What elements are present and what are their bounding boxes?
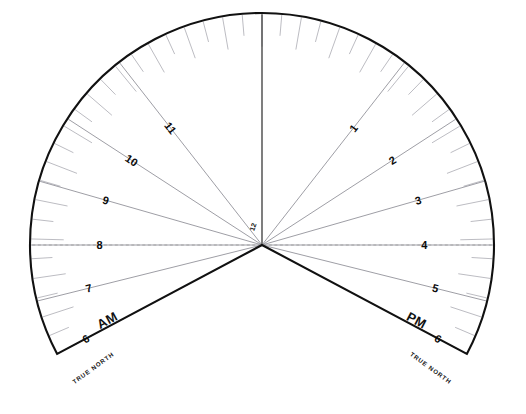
figure-background — [0, 0, 526, 414]
hour-label-am-8: 8 — [97, 239, 103, 251]
sundial-diagram: 67891011123456TRUE NORTHTRUE NORTHAMPM12 — [0, 0, 526, 414]
hour-label-pm-4: 4 — [421, 239, 428, 251]
